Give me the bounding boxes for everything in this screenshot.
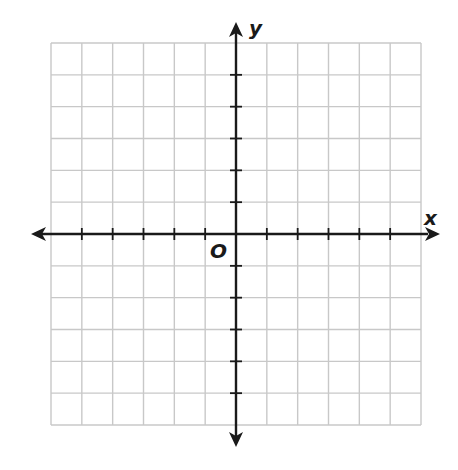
- y-axis-label: y: [249, 16, 263, 40]
- axes: [31, 22, 440, 447]
- origin-label: O: [210, 239, 227, 263]
- x-axis-label: x: [423, 206, 438, 230]
- coordinate-plane: y x O: [0, 0, 458, 470]
